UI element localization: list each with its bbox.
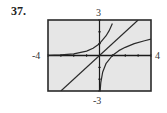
graph-plot [0,0,167,113]
